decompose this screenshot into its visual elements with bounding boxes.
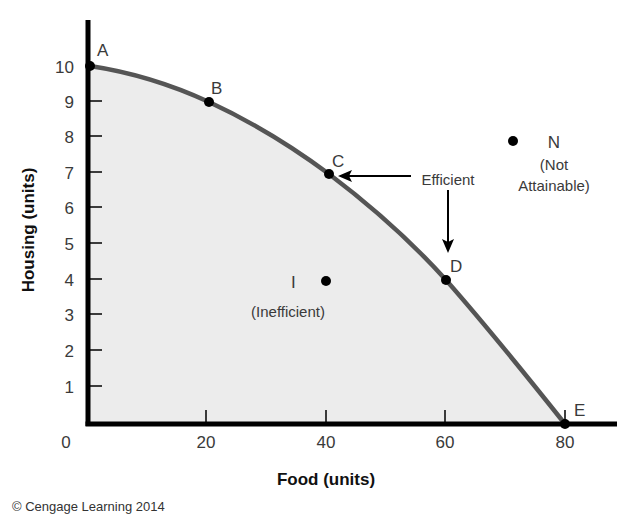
svg-text:8: 8 [65, 128, 74, 147]
svg-text:80: 80 [556, 433, 575, 452]
label-i: I [291, 273, 296, 292]
point-b [204, 97, 214, 107]
label-a: A [97, 41, 109, 60]
y-axis-title: Housing (units) [19, 168, 38, 293]
label-e: E [574, 401, 585, 420]
point-a [85, 61, 95, 71]
svg-text:60: 60 [436, 433, 455, 452]
x-axis-title: Food (units) [277, 470, 375, 489]
svg-text:4: 4 [65, 271, 74, 290]
point-i [321, 276, 331, 286]
y-tick-labels: 10 9 8 7 6 5 4 3 2 1 [55, 58, 74, 397]
label-n: N [548, 133, 560, 152]
svg-text:1: 1 [65, 378, 74, 397]
efficient-label: Efficient [421, 171, 475, 188]
copyright-credit: © Cengage Learning 2014 [12, 499, 165, 514]
label-c: C [332, 152, 344, 171]
point-e [560, 419, 570, 429]
svg-text:0: 0 [61, 433, 70, 452]
svg-text:9: 9 [65, 93, 74, 112]
point-n [508, 136, 518, 146]
svg-text:5: 5 [65, 235, 74, 254]
svg-text:40: 40 [317, 433, 336, 452]
svg-text:20: 20 [197, 433, 216, 452]
svg-text:3: 3 [65, 306, 74, 325]
svg-text:7: 7 [65, 164, 74, 183]
label-d: D [450, 257, 462, 276]
label-i-note: (Inefficient) [251, 303, 325, 320]
svg-text:2: 2 [65, 342, 74, 361]
feasible-region [90, 66, 565, 424]
label-n-note-1: (Not [540, 156, 569, 173]
label-b: B [211, 79, 222, 98]
ppf-chart: 10 9 8 7 6 5 4 3 2 1 0 20 40 60 80 Food … [0, 0, 639, 529]
svg-text:10: 10 [55, 58, 74, 77]
label-n-note-2: Attainable) [518, 177, 590, 194]
point-d [441, 275, 451, 285]
x-tick-labels: 0 20 40 60 80 [61, 433, 574, 452]
svg-text:6: 6 [65, 199, 74, 218]
